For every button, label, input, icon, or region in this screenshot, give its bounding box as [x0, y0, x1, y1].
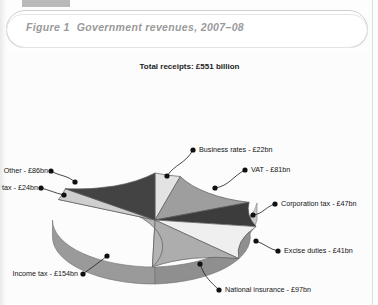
figure-number: Figure 1	[26, 21, 70, 33]
page-top-tab-mark	[22, 0, 70, 7]
callout-excise-duties: Excise duties - £41bn	[284, 247, 353, 254]
figure-caption: Figure 1Government revenues, 2007–08	[26, 21, 244, 33]
callout-national-insurance: National insurance - £97bn	[225, 286, 311, 293]
pie-top-face	[59, 173, 257, 267]
callout-income-tax: Income tax - £154bn	[12, 270, 78, 277]
callout-business-rates: Business rates - £22bn	[199, 146, 273, 153]
page-left-gutter	[0, 0, 7, 305]
callout-corporation-tax: Corporation tax - £47bn	[281, 200, 357, 207]
figure-page: Figure 1Government revenues, 2007–08 Tot…	[0, 0, 378, 305]
figure-title-text: Government revenues, 2007–08	[77, 21, 244, 33]
pie-chart-graphic	[7, 52, 372, 302]
callout-vat: VAT - £81bn	[251, 166, 290, 173]
callout-council-tax: Council tax - £24bn	[0, 184, 38, 191]
chart-canvas: Total receipts: £551 billion	[7, 52, 372, 302]
page-right-rule	[372, 0, 373, 305]
callout-other: Other - £86bn	[4, 167, 48, 174]
